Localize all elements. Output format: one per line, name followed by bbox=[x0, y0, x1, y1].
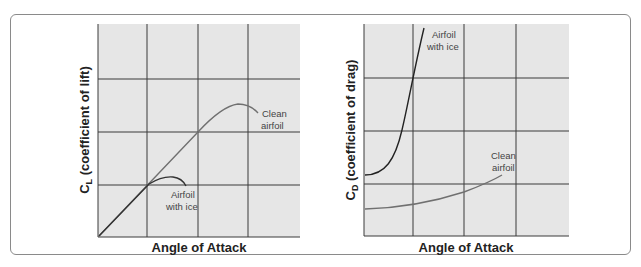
lift-clean-label-2: airfoil bbox=[261, 120, 284, 131]
lift-ice-label-1: Airfoil bbox=[171, 189, 195, 200]
drag-y-axis-label: CD (coefficient of drag) bbox=[343, 60, 360, 201]
lift-x-axis-label: Angle of Attack bbox=[152, 240, 248, 255]
drag-ice-label-2: with ice bbox=[426, 41, 459, 52]
drag-x-axis-label: Angle of Attack bbox=[419, 240, 515, 255]
lift-ice-label-2: with ice bbox=[165, 201, 198, 212]
drag-plot-area bbox=[364, 24, 569, 236]
drag-chart: Airfoil with ice Clean airfoil Angle of … bbox=[343, 24, 569, 255]
charts-svg: Clean airfoil Airfoil with ice Angle of … bbox=[0, 0, 641, 267]
lift-y-axis-label: CL (coefficient of lift) bbox=[77, 66, 94, 194]
lift-chart: Clean airfoil Airfoil with ice Angle of … bbox=[77, 24, 300, 255]
drag-clean-label-2: airfoil bbox=[492, 162, 515, 173]
lift-clean-label-1: Clean bbox=[262, 108, 287, 119]
drag-ice-label-1: Airfoil bbox=[432, 29, 456, 40]
drag-clean-label-1: Clean bbox=[491, 150, 516, 161]
